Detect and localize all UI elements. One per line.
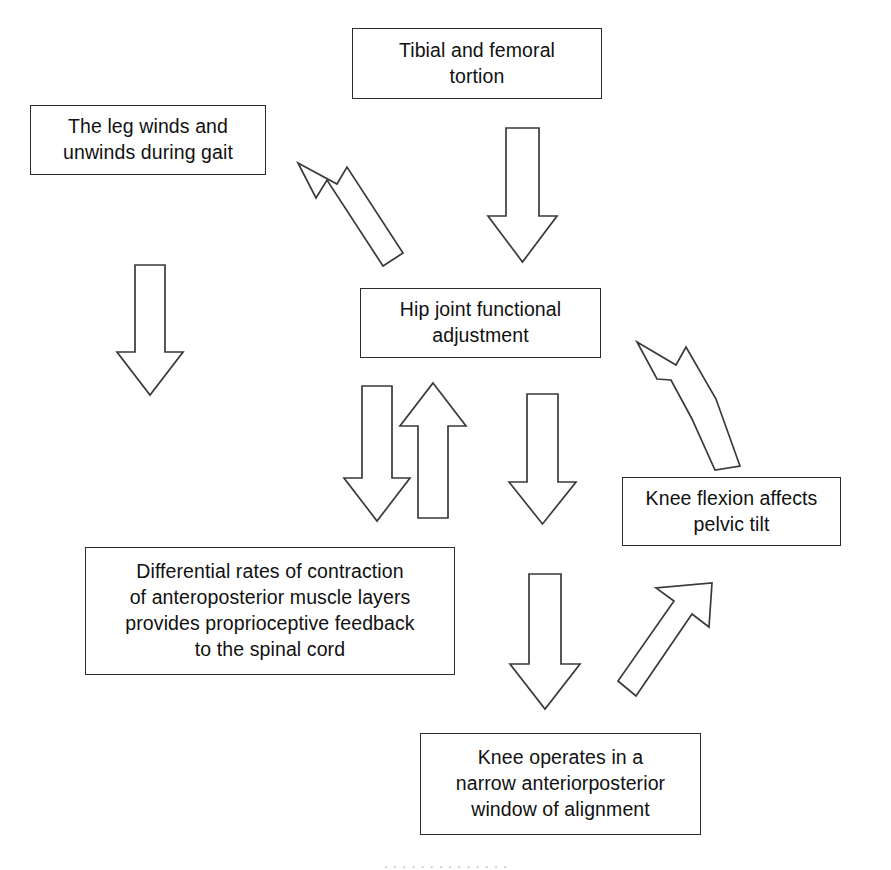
arrow-diagonal-up-left-knee-flexion-to-hip (637, 342, 740, 470)
node-label-knee-flexion-affects-pelvic-tilt: Knee flexion affects pelvic tilt (623, 486, 840, 538)
node-tibial-and-femoral-tortion[interactable]: Tibial and femoral tortion (352, 28, 602, 99)
arrow-down-hip-to-differential (344, 386, 410, 521)
node-label-hip-joint-functional-adjustment: Hip joint functional adjustment (361, 297, 600, 349)
node-knee-flexion-affects-pelvic-tilt[interactable]: Knee flexion affects pelvic tilt (622, 477, 841, 546)
node-leg-winds-and-unwinds-during-gait[interactable]: The leg winds and unwinds during gait (30, 105, 266, 175)
arrow-down-tortion-to-hip (488, 128, 557, 262)
arrow-down-to-knee-window (510, 574, 580, 709)
flow-diagram: Tibial and femoral tortion The leg winds… (0, 0, 891, 870)
node-knee-operates-in-narrow-window[interactable]: Knee operates in a narrow anteriorposter… (420, 733, 701, 835)
arrow-diagonal-up-right-knee-window-to-flexion (618, 583, 712, 696)
node-differential-rates-of-contraction[interactable]: Differential rates of contraction of ant… (85, 547, 455, 675)
arrow-up-differential-to-hip (400, 383, 466, 518)
arrow-down-hip-middle (509, 394, 576, 524)
node-hip-joint-functional-adjustment[interactable]: Hip joint functional adjustment (360, 288, 601, 358)
node-label-tibial-and-femoral-tortion: Tibial and femoral tortion (353, 38, 601, 90)
node-label-leg-winds-and-unwinds-during-gait: The leg winds and unwinds during gait (31, 114, 265, 166)
page-caption-strip: · · · · · · · · · · · · · · (0, 858, 891, 870)
arrow-diagonal-up-left-to-leg-winds (298, 163, 403, 266)
arrow-down-from-leg-winds (117, 265, 183, 395)
node-label-differential-rates-of-contraction: Differential rates of contraction of ant… (86, 559, 454, 663)
page-caption-text: · · · · · · · · · · · · · · (0, 858, 891, 870)
node-label-knee-operates-in-narrow-window: Knee operates in a narrow anteriorposter… (421, 745, 700, 823)
